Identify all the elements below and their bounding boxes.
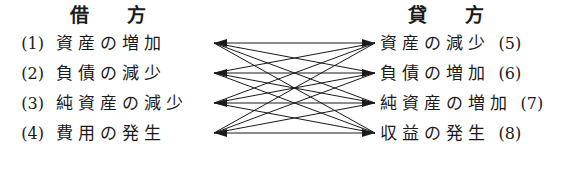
debit-entry-3-number: (3): [0, 89, 44, 119]
connection-line: [214, 43, 375, 73]
debit-credit-relationship-diagram: 借方 貸方 (1)資産の増加 (2)負債の減少 (3)純資産の減少 (4)費用の…: [0, 0, 585, 176]
debit-entry-3-term: 純資産の減少: [44, 88, 189, 118]
connection-line: [214, 103, 375, 133]
debit-side-header: 借方: [70, 2, 147, 28]
connection-line: [214, 73, 375, 133]
credit-entry-1-number: (5): [491, 29, 522, 59]
credit-entry-3: 純資産の増加(7): [376, 88, 585, 118]
left-node-1: [214, 39, 227, 47]
left-node-4: [214, 129, 227, 137]
debit-entry-1-number: (1): [0, 29, 44, 59]
debit-entry-4-number: (4): [0, 119, 44, 149]
debit-entry-1: (1)資産の増加: [0, 28, 214, 58]
connection-line: [214, 43, 375, 133]
credit-entry-1: 資産の減少(5): [376, 28, 585, 58]
credit-entry-2: 負債の増加(6): [376, 58, 585, 88]
credit-entry-2-term: 負債の増加: [376, 58, 491, 88]
connection-line: [214, 73, 375, 133]
left-node-2: [214, 69, 227, 77]
credit-header-char-1: 貸: [408, 2, 427, 28]
credit-side-header: 貸方: [408, 2, 485, 28]
debit-entry-2-term: 負債の減少: [44, 58, 167, 88]
edge-group: [214, 43, 375, 133]
connection-line: [214, 43, 375, 73]
credit-entry-3-term: 純資産の増加: [376, 88, 513, 118]
right-node-2: [362, 69, 375, 77]
connection-line: [214, 43, 375, 103]
connection-line: [214, 43, 375, 103]
debit-entry-2-number: (2): [0, 59, 44, 89]
credit-entry-2-number: (6): [491, 59, 522, 89]
node-group: [214, 39, 375, 137]
credit-entry-1-term: 資産の減少: [376, 28, 491, 58]
right-node-3: [362, 99, 375, 107]
connection-line: [214, 43, 375, 133]
credit-entry-4-number: (8): [491, 119, 522, 149]
debit-header-char-1: 借: [70, 2, 89, 28]
connection-line: [214, 73, 375, 103]
credit-entry-3-number: (7): [513, 89, 544, 119]
debit-entry-2: (2)負債の減少: [0, 58, 214, 88]
right-node-1: [362, 39, 375, 47]
debit-header-char-2: 方: [127, 2, 146, 28]
credit-entry-4-term: 収益の発生: [376, 118, 491, 148]
debit-entry-4-term: 費用の発生: [44, 118, 167, 148]
credit-header-char-2: 方: [465, 2, 484, 28]
debit-entry-4: (4)費用の発生: [0, 118, 214, 148]
debit-entry-1-term: 資産の増加: [44, 28, 167, 58]
debit-entry-3: (3)純資産の減少: [0, 88, 214, 118]
right-node-4: [362, 129, 375, 137]
connection-line: [214, 73, 375, 103]
credit-entry-4: 収益の発生(8): [376, 118, 585, 148]
connection-line: [214, 103, 375, 133]
left-node-3: [214, 99, 227, 107]
